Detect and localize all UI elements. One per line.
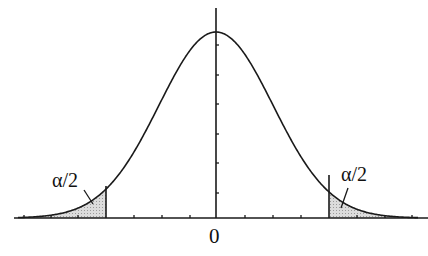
right-tail-label: α/2 (341, 164, 367, 184)
zero-tick-label: 0 (209, 226, 220, 247)
left-tail-label: α/2 (52, 170, 78, 190)
figure-canvas (0, 0, 428, 256)
axis-ticks (24, 45, 412, 218)
normal-distribution-figure: α/2 α/2 0 (0, 0, 428, 256)
